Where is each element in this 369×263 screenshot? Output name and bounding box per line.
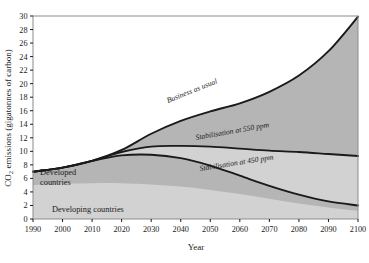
x-tick-label: 2100 [350,225,366,234]
y-tick-label: 4 [23,188,27,197]
y-tick-label: 14 [19,120,27,129]
y-tick-label: 6 [23,174,27,183]
x-tick-label: 2050 [202,225,218,234]
y-tick-label: 30 [19,12,27,21]
y-tick-label: 26 [19,39,27,48]
x-tick-label: 2070 [261,225,277,234]
x-tick-label: 2030 [143,225,159,234]
x-axis-label: Year [188,242,205,252]
y-axis-label: CO2 emissions (gigatonnes of carbon) [3,49,14,186]
x-tick-label: 2080 [291,225,307,234]
x-tick-label: 1990 [25,225,41,234]
y-tick-label: 8 [23,161,27,170]
y-tick-label: 20 [19,80,27,89]
x-tick-label: 2090 [320,225,336,234]
emissions-chart: 024681012141618202224262830 199020002010… [0,0,369,263]
y-tick-label: 16 [19,107,27,116]
x-tick-label: 2040 [173,225,189,234]
label-developed-countries-line2: countries [40,178,71,187]
x-tick-label: 2020 [113,225,129,234]
y-tick-label: 10 [19,147,27,156]
label-developing-countries: Developing countries [52,205,124,214]
label-developed-countries: Developed [40,168,77,177]
x-tick-label: 2010 [84,225,100,234]
y-tick-label: 22 [19,66,27,75]
x-tick-label: 2060 [232,225,248,234]
y-tick-label: 18 [19,93,27,102]
x-tick-label: 2000 [54,225,70,234]
y-tick-label: 24 [19,53,27,62]
y-tick-label: 0 [23,215,27,224]
y-tick-label: 28 [19,26,27,35]
y-tick-label: 12 [19,134,27,143]
y-tick-label: 2 [23,201,27,210]
figure: 024681012141618202224262830 199020002010… [0,0,369,263]
